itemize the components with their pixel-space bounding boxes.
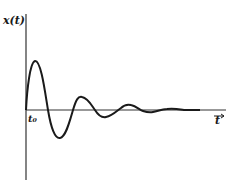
plot-canvas bbox=[0, 0, 233, 188]
x-axis-label: t bbox=[215, 114, 220, 127]
damped-curve bbox=[26, 61, 200, 138]
y-axis-label: x(t) bbox=[3, 14, 25, 27]
damped-oscillation-diagram: x(t) t₀ t bbox=[0, 0, 233, 188]
origin-label: t₀ bbox=[28, 113, 37, 124]
